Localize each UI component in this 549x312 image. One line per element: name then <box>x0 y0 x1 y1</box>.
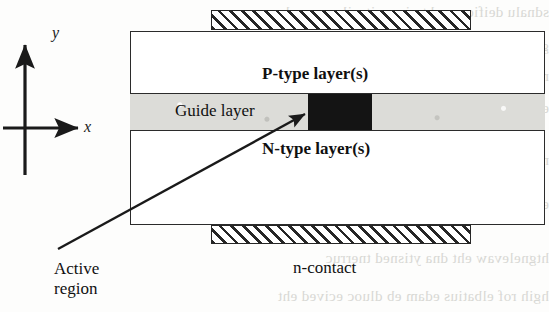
active-region-label: Active region <box>54 259 99 299</box>
p-type-layer-label: P-type layer(s) <box>262 64 368 84</box>
p-contact-hatched-bar <box>211 10 471 30</box>
n-type-layer-label: N-type layer(s) <box>262 139 370 159</box>
n-contact-hatched-bar <box>211 225 471 244</box>
n-contact-label: n-contact <box>293 258 356 278</box>
active-region-block <box>308 94 372 130</box>
x-axis-label: x <box>84 118 91 136</box>
y-axis-label: y <box>52 24 59 42</box>
figure-canvas: sdnalu deificeps eht ni ,snoitacilppa re… <box>0 0 549 312</box>
guide-layer-label: Guide layer <box>175 101 255 121</box>
